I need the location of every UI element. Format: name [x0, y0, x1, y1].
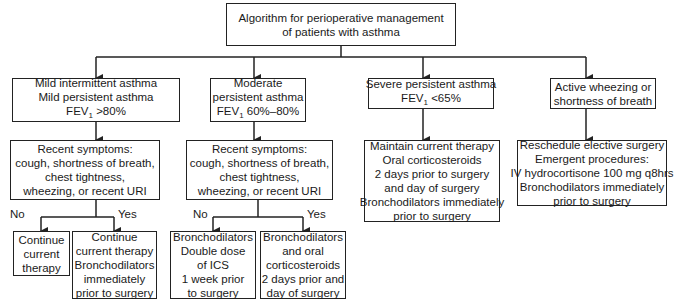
outcome-mild-yes: Continue current therapy Bronchodilators…	[72, 231, 157, 299]
plan-line: Emergent procedures:	[535, 152, 649, 166]
plan-line: Reschedule elective surgery	[520, 138, 664, 152]
yes-label-moderate: Yes	[307, 208, 326, 220]
symptoms-line: cough, shortness of breath,	[15, 156, 154, 170]
outcome-line: Bronchodilators	[173, 230, 253, 244]
plan-line: Maintain current therapy	[370, 139, 494, 153]
plan-line: 2 days prior to surgery	[375, 167, 489, 181]
symptoms-line: chest tightness,	[45, 170, 125, 184]
outcome-line: immediately	[84, 272, 145, 286]
no-label-mild: No	[10, 208, 25, 220]
outcome-line: current	[24, 247, 60, 261]
title-line: Algorithm for perioperative management	[238, 11, 443, 25]
no-label-moderate: No	[193, 208, 208, 220]
category-line: Severe persistent asthma	[366, 77, 496, 91]
outcome-line: Bronchodilators	[263, 230, 343, 244]
outcome-line: corticosteroids	[266, 258, 340, 272]
outcome-line: Continue	[91, 230, 137, 244]
symptoms-line: wheezing, or recent URI	[198, 184, 321, 198]
category-mild: Mild intermittent asthma Mild persistent…	[12, 78, 180, 122]
symptoms-line: cough, shortness of breath,	[190, 156, 329, 170]
plan-line: IV hydrocortisone 100 mg q8hrs	[511, 166, 674, 180]
category-moderate: Moderate persistent asthma FEV1 60%–80%	[210, 78, 306, 122]
fev1-line: FEV1 >80%	[66, 104, 126, 123]
outcome-line: to surgery	[187, 286, 238, 300]
category-active: Active wheezing or shortness of breath	[550, 78, 656, 109]
yes-label-mild: Yes	[118, 208, 137, 220]
category-line: Mild persistent asthma	[38, 90, 153, 104]
title-box: Algorithm for perioperative management o…	[226, 3, 456, 46]
outcome-moderate-yes: Bronchodilators and oral corticosteroids…	[260, 231, 346, 299]
outcome-line: 2 days prior and	[262, 272, 344, 286]
outcome-line: day of surgery	[267, 286, 340, 300]
symptoms-box-mild: Recent symptoms: cough, shortness of bre…	[10, 140, 160, 200]
category-line: shortness of breath	[554, 94, 652, 108]
category-severe: Severe persistent asthma FEV1 <65%	[368, 78, 494, 109]
outcome-line: Bronchodilators	[75, 258, 155, 272]
outcome-mild-no: Continue current therapy	[13, 231, 70, 276]
plan-line: Oral corticosteroids	[382, 153, 481, 167]
category-line: Active wheezing or	[555, 80, 652, 94]
outcome-moderate-no: Bronchodilators Double dose of ICS 1 wee…	[170, 231, 256, 299]
symptoms-box-moderate: Recent symptoms: cough, shortness of bre…	[186, 140, 333, 200]
symptoms-line: Recent symptoms:	[212, 142, 307, 156]
title-line: of patients with asthma	[282, 25, 400, 39]
category-line: persistent asthma	[213, 90, 304, 104]
outcome-line: Double dose	[181, 244, 246, 258]
plan-line: and day of surgery	[384, 181, 479, 195]
severe-plan-box: Maintain current therapy Oral corticoste…	[364, 140, 500, 222]
plan-line: prior to surgery	[553, 194, 630, 208]
outcome-line: therapy	[22, 261, 60, 275]
outcome-line: prior to surgery	[76, 286, 153, 300]
plan-line: Bronchodilators immediately	[520, 180, 664, 194]
plan-line: Bronchodilators immediately	[360, 195, 504, 209]
outcome-line: of ICS	[197, 258, 229, 272]
outcome-line: current therapy	[76, 244, 153, 258]
fev1-line: FEV1 60%–80%	[217, 104, 299, 123]
outcome-line: Continue	[18, 233, 64, 247]
outcome-line: 1 week prior	[182, 272, 245, 286]
fev1-line: FEV1 <65%	[401, 91, 461, 110]
category-line: Mild intermittent asthma	[35, 76, 157, 90]
outcome-line: and oral	[282, 244, 324, 258]
active-plan-box: Reschedule elective surgery Emergent pro…	[517, 140, 667, 206]
plan-line: prior to surgery	[393, 209, 470, 223]
symptoms-line: Recent symptoms:	[37, 142, 132, 156]
symptoms-line: wheezing, or recent URI	[23, 184, 146, 198]
category-line: Moderate	[234, 76, 283, 90]
symptoms-line: chest tightness,	[220, 170, 300, 184]
